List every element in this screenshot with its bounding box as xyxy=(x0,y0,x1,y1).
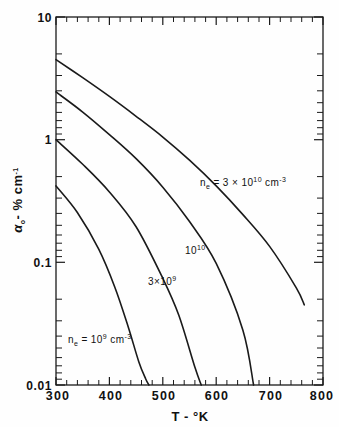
ann2-base: 3×10 xyxy=(148,276,172,287)
curve-ne-3e9 xyxy=(56,140,201,385)
x-major-ticks xyxy=(56,17,323,385)
ann1-base: 10 xyxy=(185,245,197,256)
y-axis-tail: - % cm xyxy=(10,174,25,219)
svg-text:αo- % cm-1: αo- % cm-1 xyxy=(10,167,26,232)
annotation-ne-3e9: 3×109 xyxy=(148,275,176,287)
y-tick-label: 10 xyxy=(37,11,52,25)
ann1-exp: 10 xyxy=(197,244,206,251)
y-axis-exponent: -1 xyxy=(12,167,19,174)
ann3-mid: = 10 xyxy=(78,334,103,345)
ann3-unit: cm xyxy=(107,334,124,345)
ann0-exp: 10 xyxy=(253,176,262,183)
y-minor-ticks xyxy=(56,54,323,379)
ann0-mid: = 3 × 10 xyxy=(210,177,253,188)
y-major-ticks xyxy=(56,17,323,385)
x-tick-label: 500 xyxy=(152,389,176,403)
x-axis-title: T - °K xyxy=(171,409,208,424)
y-tick-label: 0.01 xyxy=(26,379,52,393)
chart-svg: 300 400 500 600 700 800 10 1 0.1 0.01 T … xyxy=(0,0,339,427)
annotation-ne-3e10: ne = 3 × 1010 cm-3 xyxy=(200,176,286,190)
ann2-exp: 9 xyxy=(172,275,176,282)
annotation-ne-1e9: ne = 109 cm-3 xyxy=(68,333,131,347)
plot-frame xyxy=(56,17,323,385)
y-axis-title: αo- % cm-1 xyxy=(10,167,26,232)
x-tick-labels: 300 400 500 600 700 800 xyxy=(46,389,334,403)
ann0-unit: cm xyxy=(262,177,279,188)
y-tick-label: 1 xyxy=(45,133,52,147)
y-tick-label: 0.1 xyxy=(34,256,52,270)
x-tick-label: 700 xyxy=(259,389,283,403)
ann3-unit-exp: -3 xyxy=(124,333,131,340)
figure-container: 300 400 500 600 700 800 10 1 0.1 0.01 T … xyxy=(0,0,339,427)
ann0-unit-exp: -3 xyxy=(279,176,286,183)
y-tick-labels: 10 1 0.1 0.01 xyxy=(26,11,52,393)
annotation-ne-1e10: 1010 xyxy=(185,244,206,256)
curve-ne-1e9 xyxy=(56,186,149,385)
x-tick-label: 400 xyxy=(99,389,123,403)
x-tick-label: 800 xyxy=(310,389,334,403)
x-minor-ticks xyxy=(67,17,313,385)
x-tick-label: 600 xyxy=(205,389,229,403)
